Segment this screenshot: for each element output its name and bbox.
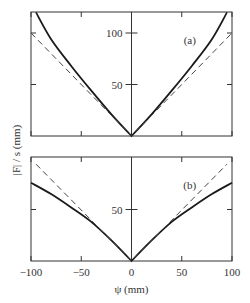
y-tick-label: 100 xyxy=(106,27,123,39)
y-tick-label: 50 xyxy=(112,79,124,91)
panel-a: 50100(a) xyxy=(31,12,232,136)
panel-label: (b) xyxy=(183,179,196,192)
x-tick-label: −50 xyxy=(73,266,91,278)
x-axis-label: ψ (mm) xyxy=(114,283,148,296)
x-tick-label: −100 xyxy=(20,266,43,278)
y-axis-label: |F| / s (mm) xyxy=(10,124,23,175)
y-tick-label: 50 xyxy=(112,204,124,216)
x-tick-label: 50 xyxy=(176,266,188,278)
panel-b: −100−5005010050(b)ψ (mm) xyxy=(20,157,241,296)
x-tick-label: 0 xyxy=(129,266,135,278)
chart: 50100(a) −100−5005010050(b)ψ (mm) |F| / … xyxy=(0,0,250,303)
x-tick-label: 100 xyxy=(224,266,241,278)
panel-label: (a) xyxy=(184,34,197,47)
